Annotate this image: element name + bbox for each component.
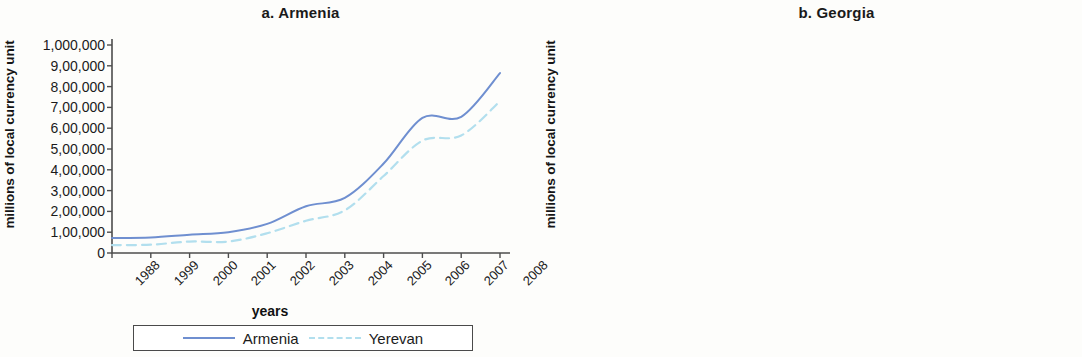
chart-panel-georgia: b. Georgia millions of local currency un… [541,0,1082,357]
x-axis-tick-label: 2007 [482,258,512,288]
x-axis-title-armenia: years [180,303,360,319]
x-axis-tick-label: 1999 [171,258,201,288]
legend-item-yerevan[interactable]: Yerevan [309,330,424,347]
x-axis-tick-labels-georgia: 1999200020012002200320042005200620072008 [541,0,1082,357]
chart-panel-armenia: a. Armenia millions of local currency un… [0,0,541,357]
x-axis-tick-label: 2002 [288,258,318,288]
x-axis-tick-label: 2005 [404,258,434,288]
legend-label: Yerevan [369,330,424,347]
x-axis-tick-label: 1988 [132,258,162,288]
figure-container: a. Armenia millions of local currency un… [0,0,1082,357]
legend-swatch-solid-line-icon [183,337,235,339]
x-axis-tick-label: 2003 [326,258,356,288]
x-axis-tick-label: 2001 [249,258,279,288]
legend-label: Armenia [243,330,299,347]
x-axis-tick-label: 2000 [210,258,240,288]
legend-armenia: ArmeniaYerevan [133,325,473,351]
x-axis-tick-label: 2004 [365,258,395,288]
legend-swatch-dashed-line-icon [309,337,361,339]
x-axis-tick-label: 2006 [443,258,473,288]
plot-area-georgia: 02004006008001,0001,2001,4001,6001,800 1… [541,0,1082,357]
legend-item-armenia[interactable]: Armenia [183,330,299,347]
